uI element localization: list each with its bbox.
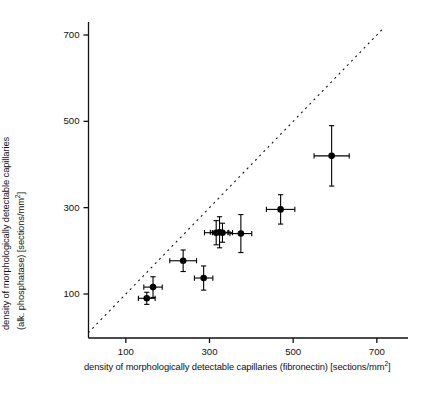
data-point: [314, 126, 349, 186]
y-axis-title: density of morphologically detectable ca…: [0, 30, 27, 330]
data-point-marker: [219, 229, 226, 236]
data-point-marker: [150, 284, 157, 291]
x-axis-title-line1: density of morphologically detectable ca…: [84, 361, 328, 372]
data-point-marker: [277, 206, 284, 213]
x-axis-tick-label: 700: [352, 346, 402, 357]
x-axis-title: density of morphologically detectable ca…: [84, 358, 414, 373]
identity-reference-line: [88, 29, 383, 333]
y-axis-tick-label: 700: [0, 29, 80, 40]
y-axis-tick-label: 100: [0, 288, 80, 299]
data-point-marker: [328, 153, 335, 160]
y-axis-tick-label: 300: [0, 202, 80, 213]
data-point: [230, 215, 252, 253]
y-axis-title-superscript: 2: [14, 195, 21, 199]
x-axis-tick-label: 300: [185, 346, 235, 357]
x-axis-title-line2: [sections/mm2]: [330, 361, 390, 372]
x-axis-title-line2-close: ]: [388, 361, 391, 372]
y-axis-tick-label: 500: [0, 115, 80, 126]
y-axis-title-line2-text: (alk. phosphatase) [sections/mm: [15, 198, 26, 330]
data-point: [170, 250, 197, 272]
scatter-plot-figure: density of morphologically detectable ca…: [0, 0, 423, 408]
y-axis-title-line2-close: ]: [15, 192, 26, 195]
data-point: [266, 195, 294, 224]
y-axis-title-line2: (alk. phosphatase) [sections/mm2]: [12, 30, 27, 330]
data-point-marker: [180, 257, 187, 264]
data-point-marker: [238, 230, 245, 237]
y-axis-title-line1: density of morphologically detectable ca…: [0, 30, 12, 330]
x-axis-tick-label: 100: [101, 346, 151, 357]
x-axis-title-line2-text: [sections/mm: [330, 361, 384, 372]
data-point-marker: [143, 295, 150, 302]
data-point-marker: [200, 275, 207, 282]
data-point-group: [138, 126, 349, 305]
x-axis-tick-label: 500: [268, 346, 318, 357]
data-point: [194, 266, 212, 290]
